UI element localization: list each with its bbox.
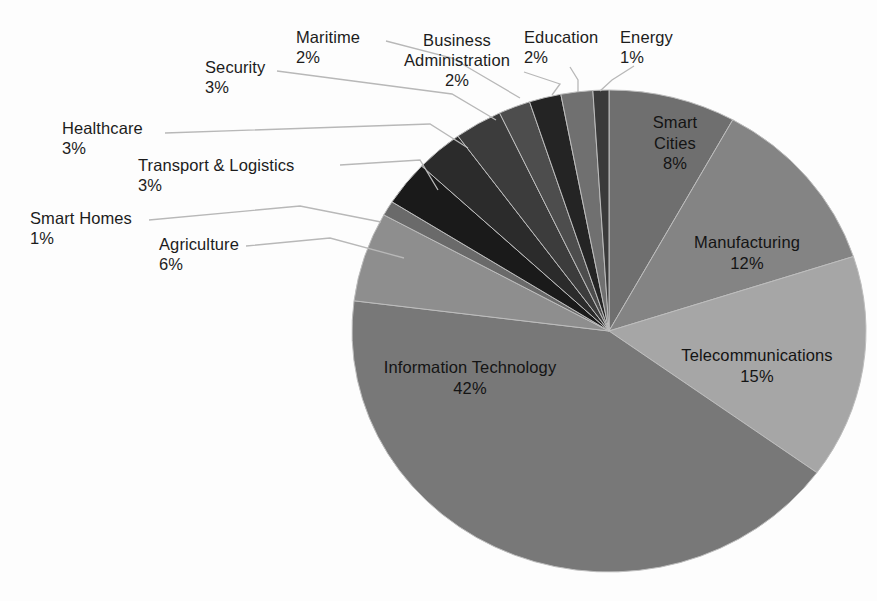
slice-percent-text: 2% — [404, 70, 510, 90]
slice-percent-text: 3% — [138, 175, 294, 195]
slice-callout-label: Education2% — [524, 27, 598, 67]
slice-percent-text: 12% — [694, 253, 800, 274]
leader-line — [570, 67, 578, 92]
slice-label-text: Education — [524, 27, 598, 47]
slice-percent-text: 8% — [633, 153, 717, 174]
slice-percent-text: 2% — [296, 47, 360, 67]
slice-percent-text: 2% — [524, 47, 598, 67]
slice-callout-label: BusinessAdministration2% — [404, 30, 510, 90]
slice-inner-label: Telecommunications15% — [681, 345, 832, 386]
slice-label-text: Maritime — [296, 27, 360, 47]
slice-label-text: Smart — [633, 112, 717, 133]
slice-percent-text: 15% — [681, 366, 832, 387]
slice-callout-label: Security3% — [205, 57, 265, 97]
slice-label-text: Manufacturing — [694, 232, 800, 253]
slice-callout-label: Energy1% — [620, 27, 673, 67]
slice-label-text: Telecommunications — [681, 345, 832, 366]
slice-callout-label: Healthcare3% — [62, 118, 143, 158]
slice-label-text: Smart Homes — [30, 208, 132, 228]
slice-callout-label: Transport & Logistics3% — [138, 155, 294, 195]
slice-inner-label: Information Technology42% — [384, 357, 557, 398]
slice-label-text: Cities — [633, 133, 717, 154]
slice-percent-text: 3% — [62, 138, 143, 158]
slice-percent-text: 3% — [205, 77, 265, 97]
slice-callout-label: Agriculture6% — [159, 234, 239, 274]
slice-label-text: Information Technology — [384, 357, 557, 378]
slice-label-text: Energy — [620, 27, 673, 47]
leader-line — [165, 124, 468, 148]
pie-slices-group — [352, 90, 866, 572]
slice-label-text: Transport & Logistics — [138, 155, 294, 175]
slice-label-text: Security — [205, 57, 265, 77]
slice-callout-label: Smart Homes1% — [30, 208, 132, 248]
slice-label-text: Healthcare — [62, 118, 143, 138]
slice-inner-label: Manufacturing12% — [694, 232, 800, 273]
pie-chart-page: SmartCities8%Manufacturing12%Telecommuni… — [0, 0, 877, 601]
slice-percent-text: 42% — [384, 378, 557, 399]
slice-callout-label: Maritime2% — [296, 27, 360, 67]
slice-label-text: Business — [404, 30, 510, 50]
slice-inner-label: SmartCities8% — [633, 112, 717, 174]
slice-percent-text: 1% — [30, 228, 132, 248]
slice-percent-text: 1% — [620, 47, 673, 67]
slice-percent-text: 6% — [159, 254, 239, 274]
leader-line — [524, 72, 560, 95]
leader-line — [600, 66, 634, 91]
slice-label-text: Agriculture — [159, 234, 239, 254]
slice-label-text: Administration — [404, 50, 510, 70]
leader-line — [149, 206, 381, 222]
